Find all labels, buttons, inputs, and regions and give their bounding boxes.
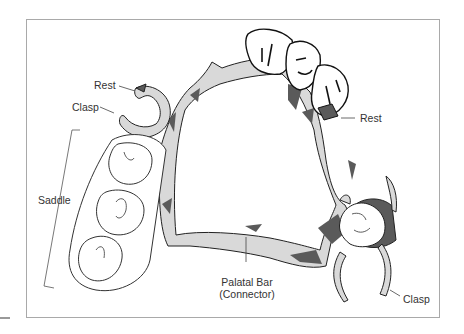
label-rest-right: Rest bbox=[360, 112, 382, 124]
label-rest-left: Rest bbox=[94, 79, 116, 91]
label-clasp-right: Clasp bbox=[403, 293, 430, 305]
label-palatal-bar-line2: (Connector) bbox=[212, 288, 282, 300]
right-tooth-assembly bbox=[334, 176, 397, 302]
left-clasp-assembly bbox=[119, 84, 170, 137]
label-saddle: Saddle bbox=[38, 194, 71, 206]
label-palatal-bar: Palatal Bar (Connector) bbox=[212, 276, 282, 300]
label-palatal-bar-line1: Palatal Bar bbox=[212, 276, 282, 288]
label-clasp-left: Clasp bbox=[72, 101, 99, 113]
